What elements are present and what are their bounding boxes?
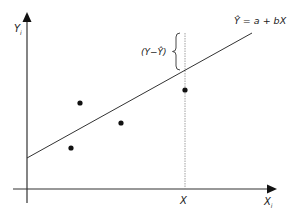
regression-equation: Ŷ = a + bX <box>234 15 287 26</box>
y-axis-label: Yi <box>14 23 22 36</box>
data-points <box>68 87 187 150</box>
diagram-svg: Yi Xi X (Y−Ŷ) Ŷ = a + bX <box>0 0 293 213</box>
y-axis-arrow-icon <box>23 12 32 22</box>
data-point <box>68 145 73 150</box>
x-axis-label: Xi <box>263 196 273 209</box>
x-marker-label: X <box>179 195 188 206</box>
regression-diagram: Yi Xi X (Y−Ŷ) Ŷ = a + bX <box>0 0 293 213</box>
data-point <box>182 87 187 92</box>
regression-line <box>27 33 252 158</box>
data-point <box>77 100 82 105</box>
residual-brace-icon <box>173 33 181 70</box>
data-point <box>118 120 123 125</box>
residual-label: (Y−Ŷ) <box>141 46 167 57</box>
x-axis-arrow-icon <box>267 185 277 194</box>
